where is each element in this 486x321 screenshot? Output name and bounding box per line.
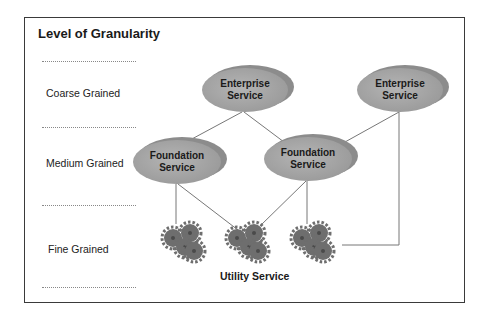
foundation-service-2: Foundation Service [268, 147, 348, 171]
node-label-line: Foundation [268, 147, 348, 159]
utility-gear-icon [226, 222, 269, 262]
node-label-line: Enterprise [360, 78, 440, 90]
node-label-line: Service [268, 159, 348, 171]
enterprise-service-1: Enterprise Service [205, 78, 285, 102]
connector-lines [176, 112, 399, 245]
node-label-line: Service [360, 90, 440, 102]
node-label-line: Foundation [137, 150, 217, 162]
utility-service-label: Utility Service [220, 270, 289, 282]
node-label-line: Service [137, 162, 217, 174]
node-label-line: Enterprise [205, 78, 285, 90]
utility-gear-icon [162, 222, 205, 262]
enterprise-service-2: Enterprise Service [360, 78, 440, 102]
granularity-diagram: Level of Granularity Coarse Grained Medi… [0, 0, 486, 321]
node-label-line: Service [205, 90, 285, 102]
foundation-service-1: Foundation Service [137, 150, 217, 174]
utility-gear-icon [291, 222, 334, 262]
